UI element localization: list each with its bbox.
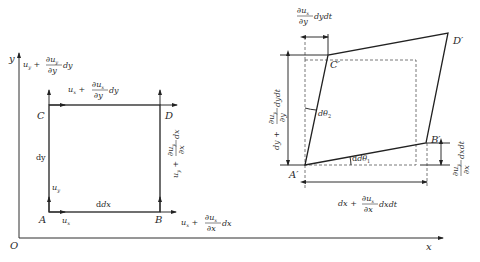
right-dimension-label: ∂uy ∂x dxdt <box>451 140 471 176</box>
corner-D-label: D <box>164 110 173 121</box>
svg-text:dy: dy <box>63 61 73 70</box>
svg-text:dx: dx <box>172 129 181 139</box>
svg-text:∂x: ∂x <box>462 165 471 174</box>
uy-plus-duy-dy-label: uy + ∂uy ∂y dy <box>23 55 73 75</box>
svg-text:∂ux: ∂ux <box>92 80 104 90</box>
svg-text:∂y: ∂y <box>48 66 57 75</box>
uy-label-A: uy <box>52 183 60 194</box>
svg-text:ux +: ux + <box>68 85 85 95</box>
svg-text:dydt: dydt <box>314 12 333 21</box>
svg-text:∂ux: ∂ux <box>297 6 309 16</box>
ux-plus-dux-dx-label: ux + ∂ux ∂x dx <box>181 213 232 233</box>
svg-text:∂y: ∂y <box>299 17 308 26</box>
x-axis-label: x <box>426 241 432 252</box>
svg-text:dx +: dx + <box>338 199 357 208</box>
svg-text:uy +: uy + <box>23 60 40 71</box>
top-dimension-label: ∂ux ∂y dydt <box>297 6 333 26</box>
svg-text:∂uy: ∂uy <box>46 55 58 66</box>
svg-text:dxdt: dxdt <box>379 200 398 209</box>
deformed-quadrilateral <box>305 33 448 165</box>
theta2-label: dθ2 <box>318 109 331 119</box>
left-dimension-label: dy + ∂uy ∂y dydt <box>267 88 287 150</box>
svg-text:∂x: ∂x <box>207 224 216 233</box>
right-deformed-element: A′ B′ C′ D′ ddθ1 dθ2 ∂ux ∂y dydt dy + ∂u… <box>267 6 471 214</box>
bottom-dimension-label: dx + ∂ux ∂x dxdt <box>338 194 398 214</box>
svg-text:uy +: uy + <box>171 161 182 178</box>
svg-text:∂uy: ∂uy <box>166 144 177 156</box>
svg-text:∂ux: ∂ux <box>205 213 217 223</box>
element-square <box>49 105 160 212</box>
ux-plus-dux-dy-label: ux + ∂ux ∂y dy <box>68 80 119 100</box>
origin-label: O <box>10 240 18 251</box>
svg-text:dydt: dydt <box>273 88 282 107</box>
y-axis-label: y <box>8 53 15 64</box>
corner-A-label: A <box>38 214 46 225</box>
dy-label: dy <box>36 153 46 162</box>
fluid-element-deformation-diagram: y x O A B C D ddx dy ux uy ux + ∂ux ∂x <box>0 0 480 262</box>
svg-text:dy +: dy + <box>272 131 281 150</box>
angle-arc-theta1 <box>350 157 351 165</box>
angle-arc-theta2 <box>305 108 316 110</box>
corner-A-prime-label: A′ <box>288 169 299 180</box>
svg-text:dy: dy <box>109 86 119 95</box>
svg-text:∂ux: ∂ux <box>362 194 374 204</box>
svg-text:∂y: ∂y <box>278 113 287 122</box>
corner-D-prime-label: D′ <box>452 35 464 46</box>
corner-B-label: B <box>154 214 162 225</box>
uy-plus-duy-dx-label: uy + ∂uy ∂x dx <box>166 129 186 178</box>
dx-label: ddx <box>96 200 111 209</box>
svg-text:∂uy: ∂uy <box>451 164 462 176</box>
svg-text:dxdt: dxdt <box>457 140 466 159</box>
svg-text:∂uy: ∂uy <box>267 112 278 124</box>
svg-text:∂y: ∂y <box>94 91 103 100</box>
svg-text:∂x: ∂x <box>364 205 373 214</box>
theta1-label: ddθ1 <box>352 154 370 164</box>
left-fluid-element: A B C D ddx dy ux uy ux + ∂ux ∂x dx ux +… <box>23 55 232 233</box>
ux-label-A: ux <box>62 216 70 226</box>
corner-C-label: C <box>37 110 45 121</box>
svg-text:∂x: ∂x <box>177 145 186 154</box>
svg-text:ux +: ux + <box>181 218 198 228</box>
svg-text:dx: dx <box>222 219 232 228</box>
corner-C-prime-label: C′ <box>330 59 341 70</box>
